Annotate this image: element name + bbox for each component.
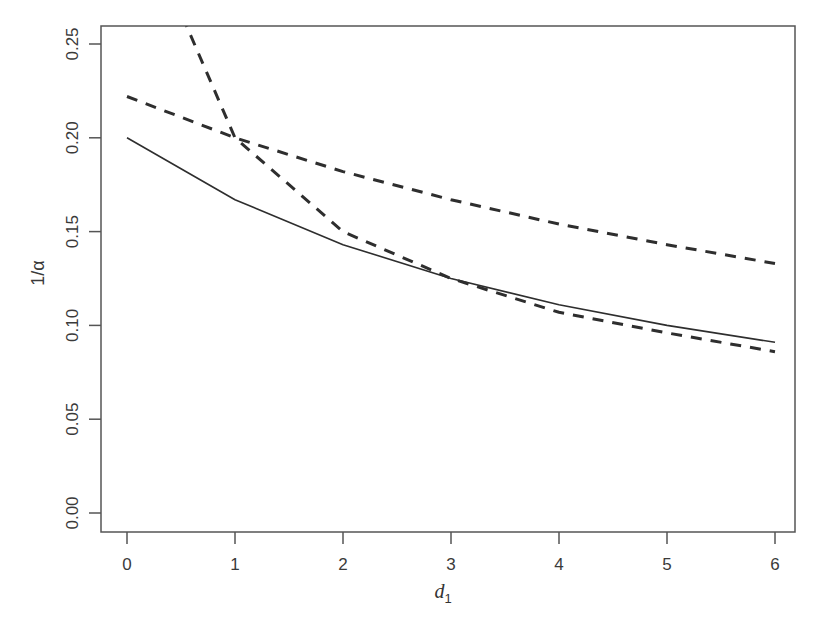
y-axis: 0.000.050.100.150.200.25 <box>63 27 101 529</box>
y-tick-label: 0.20 <box>63 121 82 154</box>
y-tick-label: 0.25 <box>63 27 82 60</box>
x-axis-title: d1 <box>434 580 451 606</box>
series-dashed-steep <box>127 0 775 352</box>
y-axis-title: 1/α <box>28 260 48 285</box>
x-tick-label: 4 <box>554 555 563 574</box>
y-tick-label: 0.00 <box>63 496 82 529</box>
series-solid <box>127 138 775 342</box>
series-layer <box>127 0 775 352</box>
x-axis: 0123456 <box>122 532 779 574</box>
x-tick-label: 0 <box>122 555 131 574</box>
series-dashed-upper <box>127 97 775 264</box>
x-tick-label: 5 <box>662 555 671 574</box>
x-tick-label: 1 <box>230 555 239 574</box>
x-tick-label: 2 <box>338 555 347 574</box>
y-tick-label: 0.15 <box>63 215 82 248</box>
line-chart: 0123456 0.000.050.100.150.200.25 d1 1/α <box>0 0 820 628</box>
x-tick-label: 6 <box>770 555 779 574</box>
y-tick-label: 0.10 <box>63 309 82 342</box>
y-tick-label: 0.05 <box>63 403 82 436</box>
plot-frame <box>101 26 795 532</box>
x-tick-label: 3 <box>446 555 455 574</box>
